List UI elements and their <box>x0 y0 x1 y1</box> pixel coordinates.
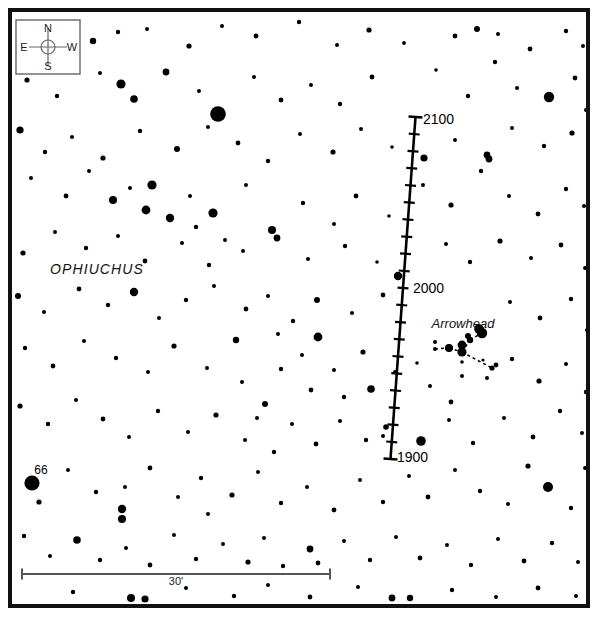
star-marker <box>206 125 210 129</box>
star-marker <box>453 468 457 472</box>
star-marker <box>390 145 394 149</box>
star-marker <box>172 533 176 537</box>
compass-south-label: S <box>44 60 51 72</box>
star-marker <box>394 535 398 539</box>
star-marker <box>448 202 453 207</box>
star-marker <box>128 186 132 190</box>
star-marker <box>582 204 586 208</box>
star-marker <box>266 583 270 587</box>
star-marker <box>171 343 176 348</box>
star-marker <box>174 146 180 152</box>
star-marker <box>229 492 234 497</box>
star-marker <box>420 154 427 161</box>
star-marker <box>515 86 519 90</box>
star-marker <box>496 537 500 541</box>
star-marker <box>576 560 580 564</box>
epoch-label: 2100 <box>423 111 454 127</box>
proper-motion-decade-tick <box>408 151 419 152</box>
star-marker <box>51 364 56 369</box>
star-marker <box>114 356 118 360</box>
star-marker <box>536 212 541 217</box>
star-marker <box>100 155 105 160</box>
star-marker <box>272 450 276 454</box>
proper-motion-decade-tick <box>400 253 411 254</box>
star-marker <box>569 130 574 135</box>
star-marker <box>564 29 568 33</box>
star-marker <box>101 417 106 422</box>
proper-motion-decade-tick <box>389 407 400 408</box>
compass-north-label: N <box>44 22 52 34</box>
star-marker <box>262 401 268 407</box>
proper-motion-decade-tick <box>395 322 406 323</box>
star-marker <box>197 89 201 93</box>
star-marker <box>148 563 153 568</box>
star-marker <box>245 559 250 564</box>
star-marker <box>314 442 319 447</box>
star-marker <box>358 478 362 482</box>
star-marker <box>176 495 180 499</box>
star-marker <box>220 24 224 28</box>
star-marker <box>453 34 458 39</box>
star-marker <box>394 272 402 280</box>
star-marker <box>580 431 584 435</box>
star-marker <box>46 422 50 426</box>
star-marker <box>525 463 530 468</box>
star-marker <box>29 176 33 180</box>
star-marker <box>508 300 512 304</box>
star-marker <box>367 385 375 393</box>
compass-rose: N S E W <box>16 20 80 74</box>
star-marker <box>510 357 514 361</box>
star-marker <box>368 558 372 562</box>
star-marker <box>194 557 198 561</box>
star-marker <box>426 495 431 500</box>
star-marker <box>306 257 310 261</box>
proper-motion-decade-tick <box>393 356 404 357</box>
proper-motion-decade-tick <box>409 134 420 135</box>
star-marker <box>184 586 188 590</box>
compass-west-label: W <box>67 41 78 53</box>
proper-motion-endcap <box>409 116 423 117</box>
star-marker <box>20 250 25 255</box>
star-marker <box>98 558 102 562</box>
star-marker <box>434 68 438 72</box>
star-marker <box>332 508 337 513</box>
star-marker <box>255 416 259 420</box>
star-marker <box>486 156 493 163</box>
star-marker <box>381 500 385 504</box>
star-chart-figure: 210020001900 OPHIUCHUS Arrowhead 66 30' … <box>0 0 599 622</box>
star-marker <box>450 588 454 592</box>
star-marker <box>188 194 192 198</box>
star-marker <box>536 378 541 383</box>
star-marker <box>186 43 191 48</box>
star-marker <box>460 360 464 364</box>
star-marker <box>87 169 91 173</box>
star-marker <box>531 435 536 440</box>
star-marker <box>266 159 270 163</box>
star-marker <box>297 20 301 24</box>
star-marker <box>469 563 473 567</box>
star-marker <box>274 235 281 242</box>
proper-motion-decade-tick <box>388 424 399 425</box>
constellation-label: OPHIUCHUS <box>50 261 144 277</box>
star-marker <box>240 380 244 384</box>
proper-motion-decade-tick <box>399 270 410 271</box>
proper-motion-decade-tick <box>386 441 397 442</box>
epoch-label: 2000 <box>413 280 444 296</box>
star-marker <box>254 34 259 39</box>
star-marker <box>116 30 120 34</box>
proper-motion-decade-tick <box>394 339 405 340</box>
star-marker <box>558 409 562 413</box>
star-marker <box>335 43 339 47</box>
star-marker <box>48 554 52 558</box>
star-marker <box>116 234 120 238</box>
proper-motion-decade-tick <box>391 373 402 374</box>
star-marker <box>402 41 406 45</box>
star-marker <box>538 316 543 321</box>
star-marker <box>573 76 578 81</box>
star-marker <box>55 94 59 98</box>
star-marker <box>118 505 126 513</box>
star-marker <box>485 376 489 380</box>
star-marker <box>199 476 203 480</box>
star-marker <box>98 71 102 75</box>
star-marker <box>268 226 276 234</box>
